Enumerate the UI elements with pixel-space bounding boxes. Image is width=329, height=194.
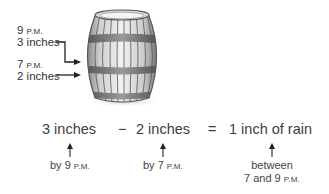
equation-equals: = [208,121,216,137]
label-7pm-amount: 2 inches [17,70,60,82]
caption-term1: by 9 P.M. [40,159,100,173]
caption-result: between 7 and 9 P.M. [232,159,312,186]
equation-minus: − [118,121,126,137]
time-suffix: P.M. [27,61,43,70]
caption-suffix: P.M. [284,175,300,184]
caption-line2: 7 and 9 P.M. [232,172,312,186]
caption-term2: by 7 P.M. [133,159,193,173]
caption-suffix: P.M. [167,162,183,171]
caption-prefix: by 7 [143,159,164,171]
equation-result: 1 inch of rain [229,121,312,137]
time-number: 9 [17,24,23,36]
time-suffix: P.M. [27,27,43,36]
label-9pm-amount: 3 inches [17,36,60,48]
equation-term1: 3 inches [42,121,96,137]
time-number: 7 [17,58,23,70]
caption-suffix: P.M. [74,162,90,171]
caption-prefix: 7 and 9 [244,172,281,184]
caption-prefix: by 9 [50,159,71,171]
barrel-icon [80,10,164,104]
caption-line1: between [232,159,312,172]
equation-term2: 2 inches [136,121,190,137]
